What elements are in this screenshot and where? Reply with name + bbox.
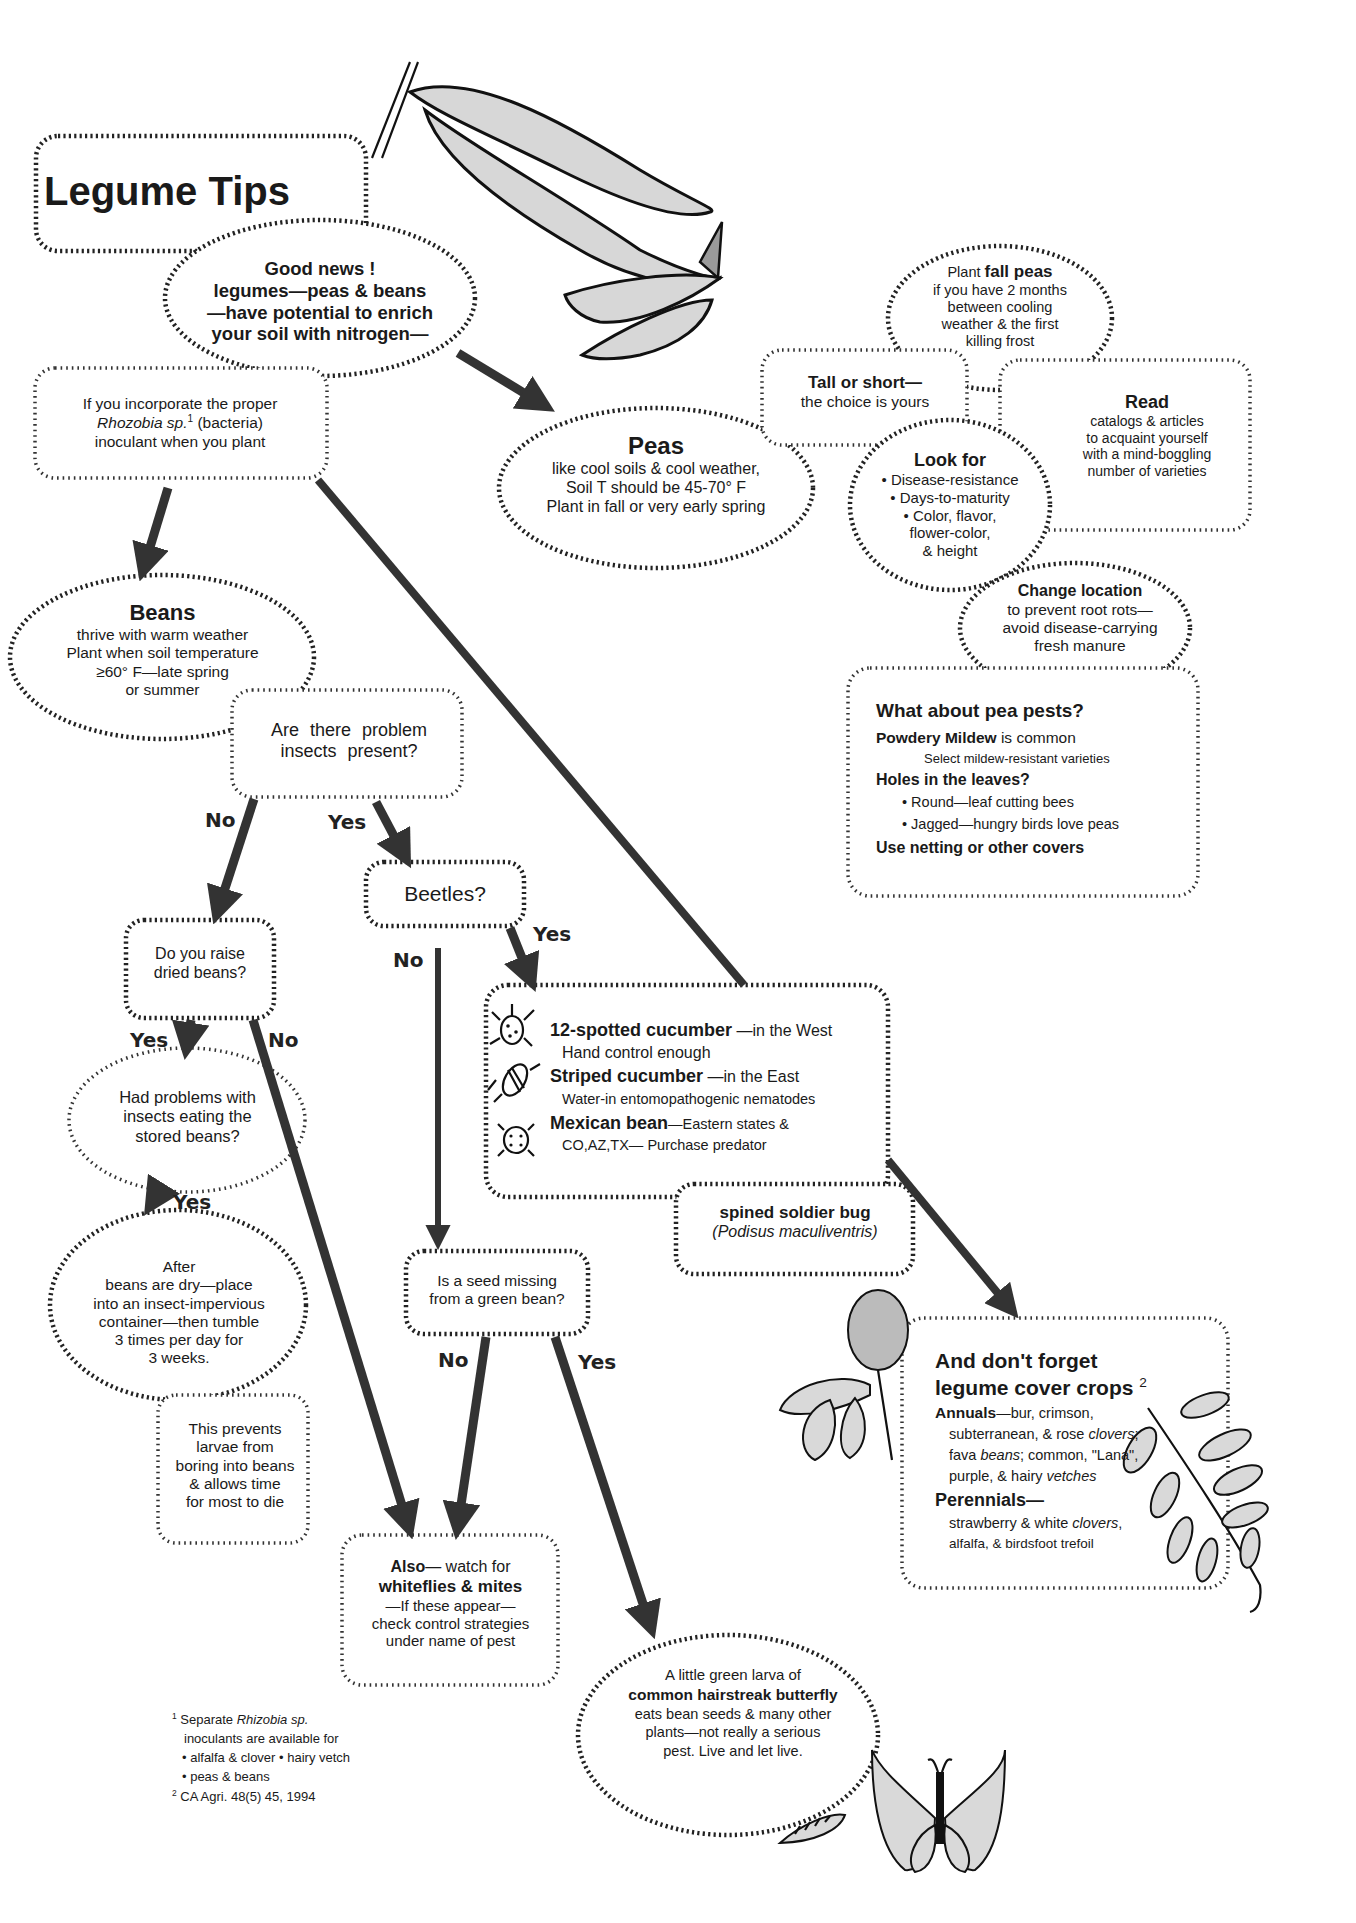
pea-pests-node: What about pea pests? Powdery Mildew is … xyxy=(876,697,1196,860)
look-for-item: & height xyxy=(860,542,1040,560)
whiteflies-mites: whiteflies & mites xyxy=(348,1577,553,1597)
holes-bullet-text: Round—leaf cutting bees xyxy=(911,794,1074,810)
cover-crops-title: And don't forget xyxy=(935,1347,1225,1374)
perennials-line: alfalfa, & birdsfoot trefoil xyxy=(935,1534,1225,1554)
beetle-region: —in the East xyxy=(703,1068,799,1085)
annuals-line: subterranean, & rose clovers; xyxy=(935,1424,1225,1445)
stored-beans-line: stored beans? xyxy=(75,1127,300,1146)
edge-label-insects-yes: Yes xyxy=(328,810,366,834)
after-dry-line: beans are dry—place xyxy=(60,1276,298,1294)
footnote-1-number: 1 xyxy=(172,1711,177,1721)
after-dry-line: into an insect-impervious xyxy=(60,1295,298,1313)
after-dry-node: After beans are dry—place into an insect… xyxy=(60,1258,298,1368)
beetle-name: 12-spotted cucumber xyxy=(550,1020,732,1040)
good-news-node: Good news ! legumes—peas & beans —have p… xyxy=(165,258,475,345)
footnotes: 1 Separate Rhizobia sp. inoculants are a… xyxy=(172,1710,422,1807)
footnote-2-text: CA Agri. 48(5) 45, 1994 xyxy=(180,1789,315,1804)
problem-insects-line: Are there problem xyxy=(240,720,458,741)
perennials-line: strawberry & white clovers, xyxy=(935,1513,1225,1534)
stored-beans-line: insects eating the xyxy=(75,1107,300,1126)
hairstreak-line: eats bean seeds & many other xyxy=(598,1705,868,1724)
beans-line: ≥60° F—late spring xyxy=(20,663,305,681)
problem-insects-node: Are there problem insects present? xyxy=(240,720,458,762)
annuals-text: purple, & hairy xyxy=(949,1468,1047,1484)
pea-pests-title: What about pea pests? xyxy=(876,697,1196,726)
look-for-title: Look for xyxy=(860,450,1040,471)
annuals-italic: beans xyxy=(980,1447,1020,1463)
fall-peas-bold: fall peas xyxy=(985,262,1053,281)
good-news-line: —have potential to enrich xyxy=(165,302,475,324)
soldier-bug-node: spined soldier bug (Podisus maculiventri… xyxy=(680,1203,910,1242)
read-title: Read xyxy=(1052,392,1242,413)
annuals-italic: vetches xyxy=(1047,1468,1097,1484)
inoculant-line: inoculant when you plant xyxy=(40,433,320,451)
footnote-1-line: • alfalfa & clover • hairy vetch xyxy=(172,1749,422,1768)
read-line: catalogs & articles xyxy=(1052,413,1242,430)
fall-peas-prefix: Plant xyxy=(947,264,984,280)
beetles-node: Beetles? xyxy=(366,882,524,907)
hairstreak-line: plants—not really a serious xyxy=(598,1723,868,1742)
beans-line: or summer xyxy=(20,681,305,699)
mildew-line: Powdery Mildew is common xyxy=(876,726,1196,749)
whiteflies-line: —If these appear— xyxy=(348,1597,553,1615)
read-line: with a mind-boggling xyxy=(1052,446,1242,463)
seed-missing-node: Is a seed missing from a green bean? xyxy=(406,1272,588,1309)
fall-peas-line: weather & the first xyxy=(900,316,1100,333)
prevents-line: This prevents xyxy=(165,1420,305,1438)
beetle-control: Hand control enough xyxy=(550,1042,890,1064)
holes-heading: Holes in the leaves? xyxy=(876,768,1196,792)
annuals-line: purple, & hairy vetches xyxy=(935,1466,1225,1487)
edge-label-beetles-no: No xyxy=(393,948,423,972)
fall-peas-line: between cooling xyxy=(900,299,1100,316)
peas-node: Peas like cool soils & cool weather, Soi… xyxy=(500,432,812,517)
perennials-text: strawberry & white xyxy=(949,1515,1072,1531)
good-news-line: Good news ! xyxy=(165,258,475,280)
footnote-1: 1 Separate Rhizobia sp. xyxy=(172,1710,422,1730)
beans-line: thrive with warm weather xyxy=(20,626,305,644)
edge-label-dried-yes: Yes xyxy=(130,1028,168,1052)
annuals-italic: clovers xyxy=(1088,1426,1134,1442)
edge-label-dried-no: No xyxy=(268,1028,298,1052)
footnote-1-text: Separate xyxy=(180,1712,236,1727)
beetle-control: CO,AZ,TX— Purchase predator xyxy=(550,1136,890,1156)
clover-flower-icon xyxy=(780,1290,908,1460)
look-for-node: Look for • Disease-resistance • Days-to-… xyxy=(860,450,1040,560)
footnote-1-line: inoculants are available for xyxy=(172,1730,422,1749)
annuals-line: Annuals—bur, crimson, xyxy=(935,1402,1225,1424)
butterfly-icon xyxy=(872,1750,1005,1872)
read-line: to acquaint yourself xyxy=(1052,430,1242,447)
soldier-bug-latin: (Podisus maculiventris) xyxy=(680,1223,910,1242)
cover-crops-title: legume cover crops 2 xyxy=(935,1374,1225,1401)
mildew-rest: is common xyxy=(997,729,1076,746)
mildew-tip: Select mildew-resistant varieties xyxy=(876,749,1196,769)
beetle-region: —Eastern states & xyxy=(668,1116,789,1132)
hairstreak-line: pest. Live and let live. xyxy=(598,1742,868,1761)
footnote-1-line: • peas & beans xyxy=(172,1768,422,1787)
after-dry-line: 3 weeks. xyxy=(60,1349,298,1367)
stored-beans-node: Had problems with insects eating the sto… xyxy=(75,1088,300,1146)
cover-crops-title-text: legume cover crops xyxy=(935,1376,1133,1399)
prevents-node: This prevents larvae from boring into be… xyxy=(165,1420,305,1511)
beetle-types-node: 12-spotted cucumber —in the West Hand co… xyxy=(550,1018,890,1155)
prevents-line: & allows time xyxy=(165,1475,305,1493)
peas-title: Peas xyxy=(500,432,812,460)
footnote-1-italic: Rhizobia sp. xyxy=(237,1712,309,1727)
dried-beans-line: dried beans? xyxy=(126,964,274,983)
problem-insects-line: insects present? xyxy=(240,741,458,762)
cover-crops-node: And don't forget legume cover crops 2 An… xyxy=(935,1347,1225,1554)
footnote-ref-2: 2 xyxy=(1139,1375,1147,1390)
look-for-item: flower-color, xyxy=(860,524,1040,542)
annuals-text: ; common, "Lana", xyxy=(1020,1447,1138,1463)
beetle-item: Mexican bean—Eastern states & xyxy=(550,1111,890,1135)
whiteflies-node: Also— watch for whiteflies & mites —If t… xyxy=(348,1558,553,1650)
annuals-text: —bur, crimson, xyxy=(996,1405,1094,1421)
inoculant-node: If you incorporate the proper Rhozobia s… xyxy=(40,395,320,451)
holes-bullet: • Round—leaf cutting bees xyxy=(876,792,1196,814)
look-for-item: • Color, flavor, xyxy=(860,507,1040,525)
peas-line: Soil T should be 45-70° F xyxy=(500,479,812,498)
holes-bullet: • Jagged—hungry birds love peas xyxy=(876,814,1196,836)
also-bold: Also xyxy=(390,1558,425,1575)
perennials-italic: clovers xyxy=(1072,1515,1118,1531)
rhizobia-text: Rhozobia sp. xyxy=(97,414,187,431)
prevents-line: boring into beans xyxy=(165,1457,305,1475)
